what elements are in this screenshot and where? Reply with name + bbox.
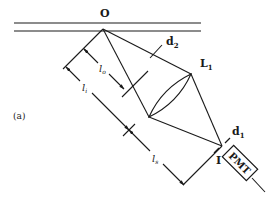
image-label: I — [216, 154, 221, 167]
pmt-detector: PMT — [222, 145, 257, 180]
lens-l1 — [149, 74, 191, 117]
lens-label: L1 — [200, 57, 213, 72]
d1-label: d1 — [232, 125, 245, 140]
d2-label: d2 — [166, 35, 179, 50]
ls-label: ls — [152, 153, 158, 165]
panel-label: (a) — [13, 111, 25, 121]
li-label: li — [82, 82, 87, 94]
dimension-lines — [66, 49, 184, 185]
lo-label: lo — [99, 63, 106, 75]
sample-surface — [14, 23, 201, 31]
optical-setup-diagram: PMT O I d2 L1 d1 lo li ls (a) — [0, 0, 275, 204]
object-label: O — [100, 7, 110, 20]
